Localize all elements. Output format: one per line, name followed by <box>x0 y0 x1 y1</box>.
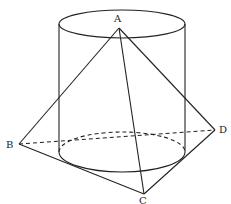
point-label-B: B <box>6 140 13 150</box>
edge-CD <box>144 130 215 194</box>
point-label-A: A <box>114 14 121 24</box>
cylinder-bottom-front-arc <box>59 152 185 172</box>
cylinder-top-ellipse <box>59 10 185 38</box>
edge-AC <box>119 28 144 194</box>
point-label-D: D <box>219 125 227 135</box>
edge-AD <box>119 28 215 130</box>
diagram-canvas: A B C D <box>0 0 231 204</box>
edge-AB <box>19 28 119 144</box>
point-label-C: C <box>139 196 147 204</box>
cylinder-bottom-back-arc <box>59 132 185 152</box>
geometry-figure <box>0 0 231 204</box>
edge-BC <box>19 144 144 194</box>
